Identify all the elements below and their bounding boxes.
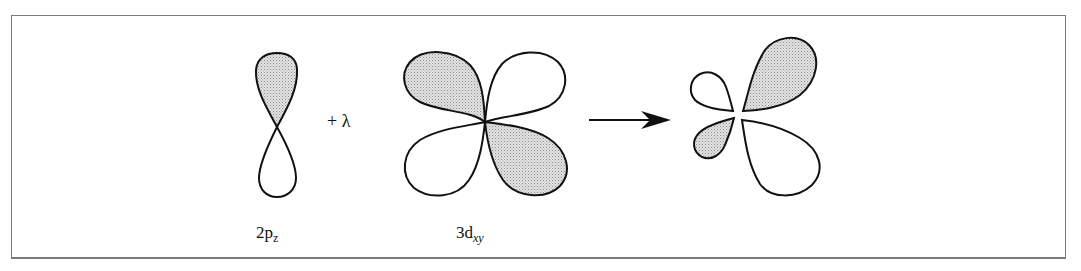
d-orbital bbox=[404, 52, 567, 195]
hybrid-orbital bbox=[691, 38, 820, 196]
hybrid-large-lower-right-lobe bbox=[742, 120, 820, 195]
orbital-diagram: 2pz + λ 3dxy bbox=[0, 0, 1081, 271]
d-orbital-label: 3dxy bbox=[456, 223, 484, 245]
p-orbital bbox=[256, 53, 297, 197]
hybrid-small-lower-left-lobe bbox=[694, 118, 734, 158]
d-orbital-lower-left-lobe bbox=[405, 122, 485, 196]
d-orbital-lower-right-lobe bbox=[485, 122, 567, 195]
p-orbital-upper-lobe bbox=[256, 53, 297, 127]
d-orbital-upper-left-lobe bbox=[404, 52, 485, 122]
reaction-arrow bbox=[589, 111, 671, 129]
hybrid-large-upper-right-lobe bbox=[743, 38, 816, 111]
d-orbital-upper-right-lobe bbox=[485, 52, 565, 122]
p-orbital-label: 2pz bbox=[256, 223, 278, 245]
p-orbital-lower-lobe bbox=[259, 127, 296, 197]
plus-lambda-operator: + λ bbox=[327, 111, 351, 131]
hybrid-small-upper-left-lobe bbox=[691, 72, 733, 111]
